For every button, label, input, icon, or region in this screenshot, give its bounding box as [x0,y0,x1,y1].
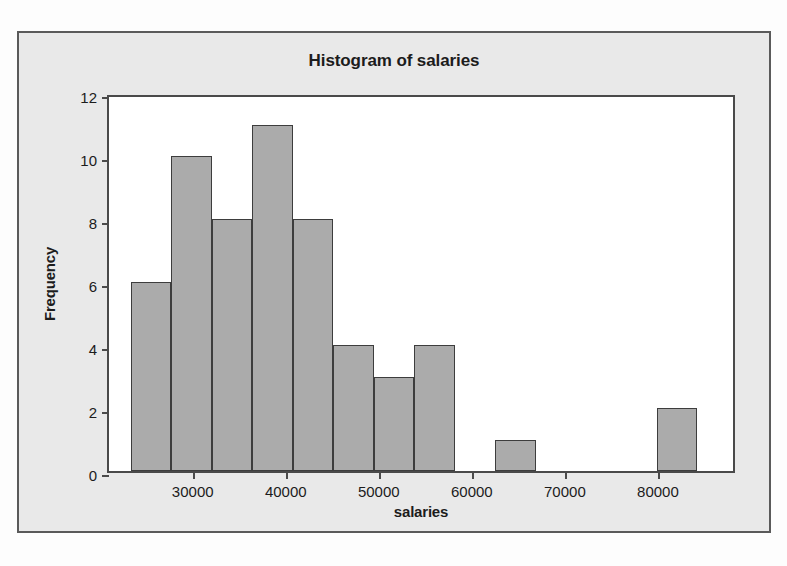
x-axis-tick [379,471,381,479]
figure-panel: Histogram of salaries Frequency 02468101… [17,31,771,533]
histogram-bar [414,345,454,471]
x-axis-tick-label: 40000 [265,483,307,500]
x-axis-tick-label: 80000 [637,483,679,500]
histogram-bar [252,125,292,472]
y-axis-tick [102,160,109,162]
scanned-page: Histogram of salaries Frequency 02468101… [0,0,787,566]
plot-area: 024681012 300004000050000600007000080000 [107,95,735,473]
y-axis-tick-label: 10 [80,152,97,169]
y-axis-tick [102,223,109,225]
x-axis-tick-label: 60000 [451,483,493,500]
histogram-bar [374,377,414,472]
y-axis-tick-label: 6 [89,278,97,295]
y-axis-tick [102,286,109,288]
y-axis-tick [102,412,109,414]
y-axis-tick-label: 12 [80,89,97,106]
histogram-bar [171,156,211,471]
histogram-bar [495,440,535,472]
x-axis-tick [658,471,660,479]
x-axis-tick [286,471,288,479]
y-axis-tick-label: 0 [89,467,97,484]
y-axis-tick-label: 2 [89,404,97,421]
x-axis-tick-label: 30000 [172,483,214,500]
x-axis-tick [472,471,474,479]
histogram-bars [109,97,733,471]
histogram-bar [657,408,697,471]
x-axis-tick-label: 50000 [358,483,400,500]
y-axis-tick [102,97,109,99]
y-axis-tick-label: 4 [89,341,97,358]
y-axis-tick [102,349,109,351]
histogram-bar [212,219,252,471]
page-title: Histogram of salaries [19,51,769,71]
histogram-bar [131,282,171,471]
histogram-bar [293,219,333,471]
x-axis-tick [193,471,195,479]
x-axis-tick-label: 70000 [544,483,586,500]
y-axis-tick-label: 8 [89,215,97,232]
y-axis-label: Frequency [41,95,61,473]
y-axis-tick [102,475,109,477]
x-axis-tick [565,471,567,479]
histogram-bar [333,345,373,471]
x-axis-label: salaries [107,503,735,520]
